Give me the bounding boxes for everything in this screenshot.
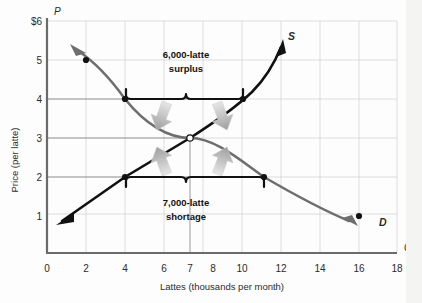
x-tick-18: 18 xyxy=(391,263,403,274)
x-tick-8: 8 xyxy=(210,263,216,274)
x-axis-title: Lattes (thousands per month) xyxy=(160,281,284,292)
supply-arrowhead-start xyxy=(56,213,74,225)
demand-curve-label: D xyxy=(379,216,387,228)
surplus-label-line2: surplus xyxy=(169,63,203,74)
arrow-down-left-icon xyxy=(147,99,178,134)
y-tick-4: 4 xyxy=(36,94,42,105)
x-tick-6: 6 xyxy=(161,263,167,274)
surplus-brace xyxy=(126,89,243,99)
y-tick-1: 1 xyxy=(36,211,42,222)
chart-canvas: $6 5 4 3 2 1 0 2 4 6 7 8 10 12 14 16 18 … xyxy=(0,0,422,303)
x-tick-labels: 0 2 4 6 7 8 10 12 14 16 18 xyxy=(44,263,403,274)
y-tick-3: 3 xyxy=(36,133,42,144)
equilibrium-point xyxy=(187,135,193,141)
y-tick-labels: $6 5 4 3 2 1 xyxy=(31,16,43,222)
supply-curve-label: S xyxy=(288,30,295,42)
page-edge-strip xyxy=(406,0,422,303)
x-tick-4: 4 xyxy=(122,263,128,274)
y-tick-2: 2 xyxy=(36,172,42,183)
x-tick-10: 10 xyxy=(236,263,248,274)
demand-point-16-1 xyxy=(356,213,362,219)
arrow-down-right-icon xyxy=(207,99,238,134)
demand-point-2-5 xyxy=(83,57,89,63)
x-tick-0: 0 xyxy=(44,263,50,274)
x-tick-7: 7 xyxy=(187,263,193,274)
x-tick-2: 2 xyxy=(83,263,89,274)
demand-curve-group xyxy=(70,44,362,226)
shortage-label-line1: 7,000-latte xyxy=(163,197,209,208)
y-axis-letter: P xyxy=(54,6,61,17)
supply-demand-figure: $6 5 4 3 2 1 0 2 4 6 7 8 10 12 14 16 18 … xyxy=(0,0,422,303)
y-tick-5: 5 xyxy=(36,55,42,66)
x-tick-12: 12 xyxy=(275,263,287,274)
x-tick-16: 16 xyxy=(353,263,365,274)
shortage-annotation: 7,000-latte shortage xyxy=(163,197,209,222)
surplus-annotation: 6,000-latte surplus xyxy=(163,49,209,74)
shortage-label-line2: shortage xyxy=(166,211,206,222)
shortage-brace xyxy=(126,177,264,187)
y-axis-title: Price (per latte) xyxy=(9,128,20,193)
surplus-label-line1: 6,000-latte xyxy=(163,49,209,60)
demand-arrowhead-end xyxy=(342,215,358,226)
x-tick-14: 14 xyxy=(314,263,326,274)
y-tick-6: $6 xyxy=(31,16,43,27)
